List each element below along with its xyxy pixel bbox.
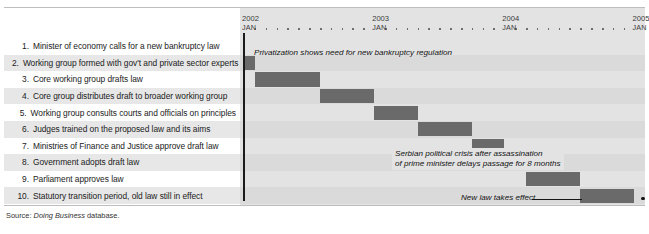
timeline-month-label: JAN bbox=[632, 23, 646, 32]
timeline-tick bbox=[396, 28, 398, 30]
timeline-tick bbox=[363, 28, 365, 30]
timeline-tick bbox=[407, 28, 409, 30]
timeline-year-label: 2005 bbox=[632, 14, 649, 23]
step-number: 10. bbox=[12, 191, 29, 201]
timeline-tick bbox=[320, 28, 322, 30]
step-label: Ministries of Finance and Justice approv… bbox=[33, 141, 219, 151]
step-number: 5. bbox=[12, 108, 27, 118]
timeline-year-label: 2003 bbox=[372, 14, 389, 23]
step-list-item[interactable]: 8.Government adopts draft law bbox=[4, 154, 236, 171]
top-trim bbox=[0, 0, 649, 5]
timeline-tick bbox=[331, 28, 333, 30]
step-list-item[interactable]: 4.Core group distributes draft to broade… bbox=[4, 88, 236, 105]
chart-panel: 2002JAN2003JAN2004JAN2005JAN 1.Minister … bbox=[4, 7, 645, 206]
timeline-tick bbox=[483, 28, 485, 30]
timeline-month-label: JAN bbox=[242, 23, 256, 32]
step-list-item[interactable]: 2.Working group formed with gov't and pr… bbox=[4, 55, 236, 72]
annotation-new-law: New law takes effect bbox=[461, 193, 535, 203]
row-background-right bbox=[240, 171, 645, 188]
step-number: 6. bbox=[12, 124, 29, 134]
timeline-year-label: 2002 bbox=[242, 14, 259, 23]
gantt-bar bbox=[580, 189, 634, 203]
timeline-tick bbox=[493, 28, 495, 30]
source-suffix: database. bbox=[87, 211, 119, 220]
step-list-item[interactable]: 3.Core working group drafts law bbox=[4, 71, 236, 88]
annotation-leader-line bbox=[532, 199, 582, 200]
row-background-right bbox=[240, 88, 645, 105]
timeline-tick bbox=[298, 28, 300, 30]
gantt-row: 4.Core group distributes draft to broade… bbox=[4, 88, 645, 105]
step-list-item[interactable]: 5.Working group consults courts and offi… bbox=[4, 104, 236, 121]
annotation-leader-dot bbox=[641, 197, 645, 201]
source-publication: Doing Business bbox=[34, 211, 85, 220]
step-number: 3. bbox=[12, 74, 29, 84]
timeline-tick bbox=[580, 28, 582, 30]
step-label: Government adopts draft law bbox=[33, 157, 139, 167]
timeline-tick bbox=[602, 28, 604, 30]
timeline-year-label: 2004 bbox=[502, 14, 519, 23]
step-label: Core group distributes draft to broader … bbox=[33, 91, 227, 101]
timeline-tick bbox=[559, 28, 561, 30]
timeline-tick bbox=[548, 28, 550, 30]
gantt-bar bbox=[526, 172, 580, 186]
step-label: Judges trained on the proposed law and i… bbox=[33, 124, 210, 134]
step-number: 1. bbox=[12, 41, 29, 51]
step-list-item[interactable]: 6.Judges trained on the proposed law and… bbox=[4, 121, 236, 138]
gantt-bar bbox=[418, 122, 472, 136]
timeline-axis: 2002JAN2003JAN2004JAN2005JAN bbox=[240, 14, 645, 38]
timeline-month-label: JAN bbox=[502, 23, 516, 32]
step-number: 4. bbox=[12, 91, 29, 101]
step-label: Working group consults courts and offici… bbox=[31, 108, 236, 118]
timeline-tick bbox=[450, 28, 452, 30]
step-label: Core working group drafts law bbox=[33, 74, 143, 84]
gantt-bar bbox=[255, 72, 320, 86]
timeline-month-label: JAN bbox=[372, 23, 386, 32]
timeline-tick bbox=[418, 28, 420, 30]
timeline-tick bbox=[461, 28, 463, 30]
step-list-item[interactable]: 9.Parliament approves law bbox=[4, 171, 236, 188]
step-number: 9. bbox=[12, 174, 29, 184]
gantt-bar bbox=[374, 106, 417, 120]
timeline-tick bbox=[352, 28, 354, 30]
step-label: Statutory transition period, old law sti… bbox=[33, 191, 203, 201]
gantt-row: 3.Core working group drafts law bbox=[4, 71, 645, 88]
step-label: Working group formed with gov't and priv… bbox=[23, 58, 238, 68]
axis-vertical-line bbox=[243, 33, 245, 201]
timeline-tick bbox=[472, 28, 474, 30]
step-number: 8. bbox=[12, 157, 29, 167]
timeline-tick bbox=[277, 28, 279, 30]
row-background-right bbox=[240, 104, 645, 121]
timeline-tick bbox=[439, 28, 441, 30]
timeline-tick bbox=[624, 28, 626, 30]
source-note: Source: Doing Business database. bbox=[6, 211, 119, 220]
gantt-rows: 1.Minister of economy calls for a new ba… bbox=[4, 38, 645, 204]
timeline-tick bbox=[428, 28, 430, 30]
timeline-tick bbox=[309, 28, 311, 30]
gantt-row: 6.Judges trained on the proposed law and… bbox=[4, 121, 645, 138]
timeline-tick bbox=[342, 28, 344, 30]
annotation-crisis-line1: Serbian political crisis after assassina… bbox=[395, 149, 561, 159]
timeline-tick bbox=[266, 28, 268, 30]
annotation-crisis-line2: of prime minister delays passage for 8 m… bbox=[395, 159, 561, 169]
timeline-tick bbox=[287, 28, 289, 30]
step-label: Minister of economy calls for a new bank… bbox=[33, 41, 219, 51]
gantt-bar bbox=[320, 89, 374, 103]
step-list-item[interactable]: 1.Minister of economy calls for a new ba… bbox=[4, 38, 236, 55]
step-number: 7. bbox=[12, 141, 29, 151]
step-number: 2. bbox=[12, 58, 19, 68]
source-prefix: Source: bbox=[6, 211, 31, 220]
annotation-crisis: Serbian political crisis after assassina… bbox=[392, 148, 564, 170]
timeline-tick bbox=[591, 28, 593, 30]
gantt-row: 9.Parliament approves law bbox=[4, 171, 645, 188]
timeline-tick bbox=[613, 28, 615, 30]
timeline-tick bbox=[526, 28, 528, 30]
figure-container: 2002JAN2003JAN2004JAN2005JAN 1.Minister … bbox=[0, 0, 649, 234]
timeline-tick bbox=[569, 28, 571, 30]
gantt-row: 10.Statutory transition period, old law … bbox=[4, 187, 645, 204]
step-label: Parliament approves law bbox=[33, 174, 124, 184]
annotation-privatization: Privatization shows need for new bankrup… bbox=[254, 48, 452, 58]
step-list-item[interactable]: 10.Statutory transition period, old law … bbox=[4, 187, 236, 204]
timeline-tick bbox=[537, 28, 539, 30]
step-list-item[interactable]: 7.Ministries of Finance and Justice appr… bbox=[4, 138, 236, 155]
gantt-row: 5.Working group consults courts and offi… bbox=[4, 104, 645, 121]
